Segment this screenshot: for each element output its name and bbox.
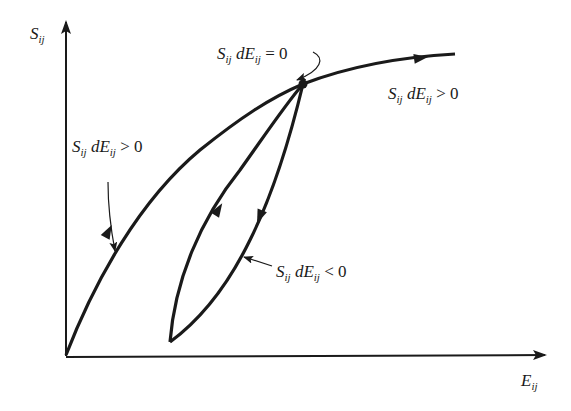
leader-neg bbox=[244, 257, 272, 266]
annotation-relation: > 0 bbox=[120, 137, 142, 156]
leader-pos-left bbox=[108, 182, 115, 251]
y-axis-label-sub: ij bbox=[39, 33, 45, 45]
x-axis bbox=[66, 355, 545, 357]
annotation-relation: < 0 bbox=[324, 262, 346, 281]
annotation-sub: ij bbox=[226, 53, 232, 65]
turning-point bbox=[299, 80, 308, 89]
x-axis-label: Eij bbox=[521, 372, 538, 392]
x-axis-label-sub: ij bbox=[531, 380, 537, 392]
annotation-positive-left: Sij dEij > 0 bbox=[72, 138, 142, 158]
annotation-sub: ij bbox=[397, 93, 403, 105]
annotation-zero: Sij dEij = 0 bbox=[217, 45, 287, 65]
annotation-de: dE bbox=[407, 84, 426, 103]
annotation-s: S bbox=[217, 44, 226, 63]
annotation-negative: Sij dEij < 0 bbox=[276, 263, 346, 283]
annotation-sub: ij bbox=[426, 93, 432, 105]
annotation-de: dE bbox=[91, 137, 110, 156]
annotation-sub: ij bbox=[255, 53, 261, 65]
annotation-sub: ij bbox=[314, 271, 320, 283]
direction-arrow-icon bbox=[101, 223, 116, 240]
annotation-positive-right: Sij dEij > 0 bbox=[388, 85, 458, 105]
annotation-relation: = 0 bbox=[265, 44, 287, 63]
annotation-sub: ij bbox=[81, 146, 87, 158]
annotation-sub: ij bbox=[285, 271, 291, 283]
stress-strain-diagram: Sij Eij Sij dEij = 0 Sij dEij > 0 Sij dE… bbox=[0, 0, 571, 411]
annotation-de: dE bbox=[236, 44, 255, 63]
annotation-s: S bbox=[388, 84, 397, 103]
direction-arrow-icon bbox=[413, 52, 428, 64]
y-axis-label-main: S bbox=[30, 24, 39, 43]
x-axis-label-main: E bbox=[521, 371, 531, 390]
leader-zero bbox=[297, 52, 320, 80]
annotation-de: dE bbox=[295, 262, 314, 281]
annotation-s: S bbox=[72, 137, 81, 156]
annotation-s: S bbox=[276, 262, 285, 281]
annotation-sub: ij bbox=[110, 146, 116, 158]
annotation-relation: > 0 bbox=[436, 84, 458, 103]
y-axis-label: Sij bbox=[30, 25, 45, 45]
